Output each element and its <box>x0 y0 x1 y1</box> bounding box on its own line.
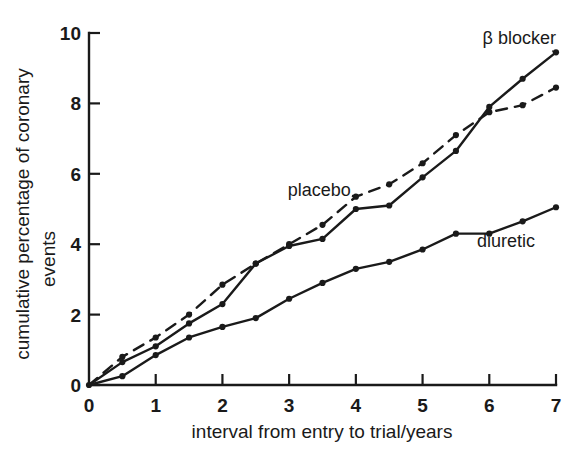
data-point-marker <box>153 334 159 340</box>
chart-figure: 0246810 01234567 β blockerplacebodiureti… <box>0 0 585 451</box>
data-point-marker <box>353 266 359 272</box>
x-tick-label: 7 <box>551 395 562 416</box>
data-point-marker <box>520 218 526 224</box>
x-axis-ticks <box>156 374 556 385</box>
data-point-marker <box>186 320 192 326</box>
data-point-marker <box>486 109 492 115</box>
data-point-marker <box>453 148 459 154</box>
line-chart: 0246810 01234567 β blockerplacebodiureti… <box>0 0 585 451</box>
data-point-marker <box>119 373 125 379</box>
data-point-marker <box>419 246 425 252</box>
series-label: diuretic <box>477 231 535 251</box>
x-axis-title: interval from entry to trial/years <box>192 421 453 442</box>
series-layer <box>86 49 559 388</box>
series-label: β blocker <box>483 28 556 48</box>
data-point-marker <box>286 241 292 247</box>
data-point-marker <box>453 231 459 237</box>
data-point-marker <box>286 296 292 302</box>
data-point-marker <box>119 354 125 360</box>
x-tick-label: 3 <box>284 395 295 416</box>
data-point-marker <box>319 236 325 242</box>
y-tick-label: 0 <box>70 375 81 396</box>
y-axis-ticks <box>89 33 100 385</box>
data-point-marker <box>219 301 225 307</box>
data-point-marker <box>520 102 526 108</box>
data-point-marker <box>253 260 259 266</box>
x-tick-label: 0 <box>84 395 95 416</box>
data-point-marker <box>386 202 392 208</box>
data-point-marker <box>553 49 559 55</box>
data-point-marker <box>153 343 159 349</box>
data-point-marker <box>419 160 425 166</box>
data-point-marker <box>153 352 159 358</box>
series-annotations: β blockerplacebodiuretic <box>288 28 556 250</box>
x-tick-label: 4 <box>351 395 362 416</box>
data-point-marker <box>219 282 225 288</box>
data-point-marker <box>520 76 526 82</box>
y-tick-label: 8 <box>70 93 81 114</box>
data-point-marker <box>453 132 459 138</box>
data-point-marker <box>486 104 492 110</box>
data-point-marker <box>186 312 192 318</box>
series-label: placebo <box>288 180 351 200</box>
data-point-marker <box>253 315 259 321</box>
y-tick-label: 4 <box>70 234 81 255</box>
y-tick-label: 10 <box>60 23 81 44</box>
data-point-marker <box>553 84 559 90</box>
data-point-marker <box>186 334 192 340</box>
data-point-marker <box>319 280 325 286</box>
data-point-marker <box>219 324 225 330</box>
data-point-marker <box>553 204 559 210</box>
data-point-marker <box>319 222 325 228</box>
x-tick-label: 5 <box>417 395 428 416</box>
x-axis-tick-labels: 01234567 <box>84 395 562 416</box>
x-tick-label: 6 <box>484 395 495 416</box>
y-tick-label: 2 <box>70 305 81 326</box>
y-axis-tick-labels: 0246810 <box>60 23 82 396</box>
x-tick-label: 2 <box>217 395 228 416</box>
data-point-marker <box>419 174 425 180</box>
y-axis-title-line-1: cumulative percentage of coronary <box>12 68 33 360</box>
data-point-marker <box>386 259 392 265</box>
data-point-marker <box>386 181 392 187</box>
y-axis-title-line-2: events <box>38 231 59 287</box>
x-tick-label: 1 <box>150 395 161 416</box>
y-tick-label: 6 <box>70 164 81 185</box>
data-point-marker <box>353 206 359 212</box>
